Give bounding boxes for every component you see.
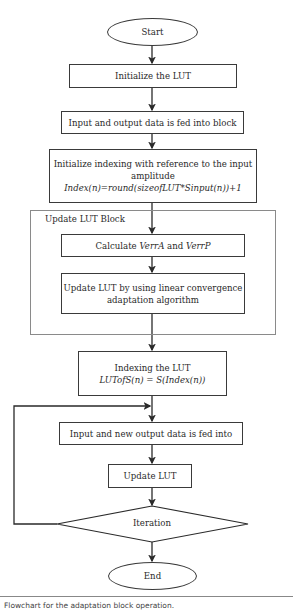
init-indexing-line2: amplitude [131, 170, 175, 182]
adaptation-line2: adaptation algorithm [107, 294, 199, 306]
init-lut-label: Initialize the LUT [115, 70, 191, 82]
update-lut-box: Update LUT [108, 464, 192, 488]
update-lut-block-label: Update LUT Block [45, 214, 125, 224]
index-formula: Index(n)=round(sizeofLUT*Sinput(n))+1 [64, 182, 242, 194]
calc-prefix: Calculate [95, 241, 139, 251]
indexing-lut-box: Indexing the LUT LUTofS(n) = S(Index(n)) [78, 351, 227, 396]
verra-var: VerrA [139, 241, 164, 251]
feed-data-box: Input and output data is fed into block [61, 111, 244, 134]
verrp-var: VerrP [186, 241, 211, 251]
calculate-verr-box: Calculate VerrA and VerrP [61, 234, 245, 257]
start-terminal: Start [107, 18, 198, 46]
update-lut-label: Update LUT [124, 470, 177, 482]
caption-divider [0, 596, 293, 597]
feed-data-label: Input and output data is fed into block [69, 117, 237, 129]
feed-new-data-box: Input and new output data is fed into [59, 422, 243, 445]
calc-and: and [164, 241, 186, 251]
iteration-label: Iteration [112, 518, 192, 528]
calculate-verr-label: Calculate VerrA and VerrP [95, 240, 210, 252]
init-indexing-line1: Initialize indexing with reference to th… [54, 158, 253, 170]
adaptation-line1: Update LUT by using linear convergence [64, 282, 243, 294]
end-label: End [144, 570, 161, 582]
feed-new-data-label: Input and new output data is fed into [70, 428, 232, 440]
init-lut-box: Initialize the LUT [69, 64, 237, 88]
start-label: Start [141, 26, 163, 38]
indexing-lut-line1: Indexing the LUT [115, 362, 191, 374]
figure-caption: Flowchart for the adaptation block opera… [4, 601, 174, 610]
lut-formula: LUTofS(n) = S(Index(n)) [100, 374, 206, 386]
end-terminal: End [108, 562, 197, 590]
init-indexing-box: Initialize indexing with reference to th… [49, 149, 257, 203]
adaptation-algorithm-box: Update LUT by using linear convergence a… [61, 273, 245, 314]
